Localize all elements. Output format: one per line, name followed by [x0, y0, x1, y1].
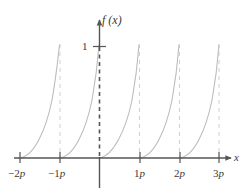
plot-area: [0, 0, 247, 195]
x-tick-label-3p: 3p: [213, 168, 224, 179]
curve-branch-0: [100, 45, 140, 158]
y-axis-label: f (x): [102, 14, 122, 26]
function-curves: [20, 45, 219, 158]
curve-branch-2p: [180, 45, 219, 158]
y-tick-label-one: 1: [82, 41, 88, 52]
x-tick-label-2p: 2p: [174, 168, 185, 179]
x-axis-label: x: [234, 152, 239, 163]
curve-branch-neg1p: [60, 45, 99, 158]
curve-branch-1p: [140, 45, 179, 158]
x-tick-label-1p-unit: p: [140, 167, 146, 179]
x-tick-label-3p-unit: p: [219, 167, 225, 179]
x-tick-label-neg1p-unit: p: [60, 167, 66, 179]
x-tick-label-2p-unit: p: [180, 167, 186, 179]
figure-container: f (x) x 1 −2p −1p 1p 2p 3p: [0, 0, 247, 195]
x-tick-label-neg1p: −1p: [48, 168, 65, 179]
asymptote-lines: [60, 44, 219, 158]
x-tick-label-neg2p: −2p: [8, 168, 25, 179]
x-tick-label-neg2p-unit: p: [20, 167, 26, 179]
x-tick-label-1p: 1p: [134, 168, 145, 179]
curve-branch-neg2p: [20, 45, 60, 158]
